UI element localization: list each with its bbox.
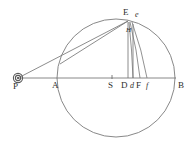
label-point-d: d [130, 82, 134, 90]
label-point-B: B [178, 81, 184, 90]
figure-canvas [0, 0, 194, 152]
curve-E-to-f [132, 22, 147, 78]
ray-P-to-E [20, 21, 128, 77]
label-point-A: A [52, 81, 59, 90]
label-point-e: e [135, 11, 139, 19]
label-point-P: P [13, 82, 18, 91]
sun-icon-dot [17, 77, 19, 79]
label-point-H: H [126, 27, 131, 34]
label-point-f: f [146, 82, 148, 90]
label-point-D: D [121, 81, 128, 90]
label-point-S: S [108, 81, 113, 90]
label-point-F: F [136, 81, 141, 90]
label-point-E: E [123, 8, 129, 17]
geometry-figure: P A S D d F f B E e H [0, 0, 194, 152]
chord-A-to-E [60, 21, 128, 64]
